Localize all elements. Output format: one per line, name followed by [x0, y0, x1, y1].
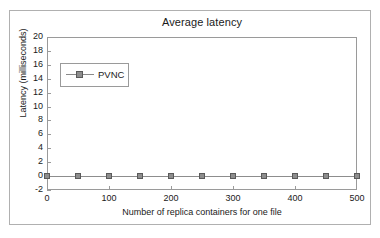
y-tick-mark [47, 120, 51, 121]
data-point-marker [230, 173, 236, 179]
x-tick-mark [295, 186, 296, 190]
y-tick-mark [47, 79, 51, 80]
x-tick-label: 500 [337, 193, 377, 203]
legend-square-marker-icon [76, 71, 83, 78]
plot-area [47, 37, 357, 190]
y-tick-label: 20 [21, 32, 43, 41]
x-tick-label: 100 [89, 193, 129, 203]
y-tick-mark [47, 162, 51, 163]
y-tick-mark [47, 134, 51, 135]
data-point-marker [323, 173, 329, 179]
y-tick-mark [47, 51, 51, 52]
y-tick-label: 14 [21, 74, 43, 83]
x-tick-mark [109, 186, 110, 190]
x-tick-mark [233, 186, 234, 190]
y-tick-mark [47, 107, 51, 108]
y-tick-label: 8 [21, 115, 43, 124]
data-point-marker [75, 173, 81, 179]
data-point-marker [292, 173, 298, 179]
y-tick-label: 12 [21, 88, 43, 97]
y-tick-mark [47, 65, 51, 66]
y-tick-mark [47, 37, 51, 38]
data-point-marker [168, 173, 174, 179]
chart-figure: Average latency Latency (milliseconds) N… [0, 0, 380, 238]
x-axis-label: Number of replica containers for one fil… [47, 207, 357, 217]
y-tick-mark [47, 93, 51, 94]
x-tick-label: 300 [213, 193, 253, 203]
y-tick-label: 6 [21, 129, 43, 138]
y-tick-label: 2 [21, 157, 43, 166]
x-tick-label: 400 [275, 193, 315, 203]
y-tick-label: 10 [21, 102, 43, 111]
chart-title: Average latency [47, 16, 357, 28]
data-point-marker [354, 173, 360, 179]
data-point-marker [199, 173, 205, 179]
legend-item-label: PVNC [98, 69, 124, 80]
data-point-marker [44, 173, 50, 179]
y-tick-label: 4 [21, 143, 43, 152]
x-tick-label: 200 [151, 193, 191, 203]
x-tick-label: 0 [27, 193, 67, 203]
x-tick-mark [171, 186, 172, 190]
data-point-marker [137, 173, 143, 179]
y-tick-label: 16 [21, 60, 43, 69]
data-point-marker [106, 173, 112, 179]
legend-box: PVNC [60, 63, 129, 87]
data-point-marker [261, 173, 267, 179]
y-tick-label: 18 [21, 46, 43, 55]
y-tick-label: 0 [21, 171, 43, 180]
y-tick-mark [47, 190, 51, 191]
y-tick-mark [47, 148, 51, 149]
